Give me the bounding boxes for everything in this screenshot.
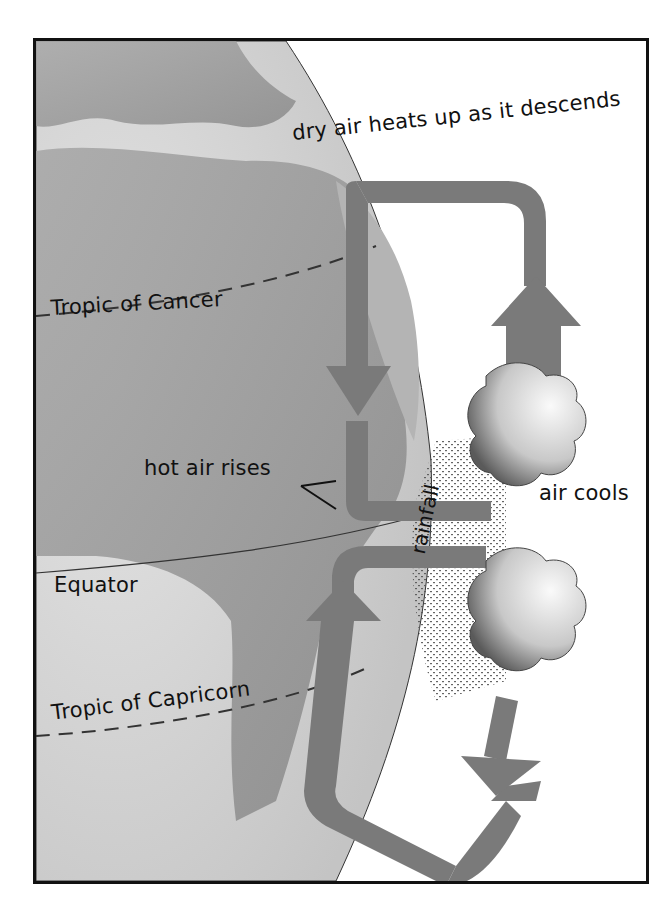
label-equator: Equator: [54, 573, 138, 597]
cloud-lower: [468, 548, 586, 671]
hadley-cell-illustration: [36, 41, 646, 881]
diagram-frame: dry air heats up as it descends Tropic o…: [33, 38, 649, 884]
label-air-cools: air cools: [539, 481, 629, 505]
label-hot-air-rises: hot air rises: [144, 456, 271, 480]
cloud-upper: [468, 363, 586, 486]
